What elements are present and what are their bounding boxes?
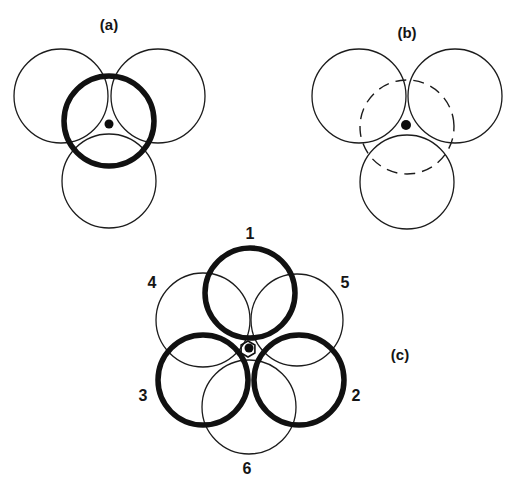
circle-number-label: 5 xyxy=(341,274,350,291)
circle-number-label: 2 xyxy=(352,387,361,404)
panel-a-label: (a) xyxy=(100,16,118,33)
panel-a: (a) xyxy=(14,16,205,228)
figure-canvas: (a) (b) (c) 456123 xyxy=(0,0,516,487)
panel-b-label: (b) xyxy=(397,24,416,41)
circle-number-label: 1 xyxy=(246,225,255,242)
center-dot xyxy=(245,344,254,353)
panel-b: (b) xyxy=(312,24,502,229)
circle-packing-figure: (a) (b) (c) 456123 xyxy=(0,0,516,487)
thin-circle xyxy=(312,49,406,143)
thin-circle xyxy=(14,49,108,143)
thick-circle xyxy=(158,335,248,425)
panel-c: (c) 456123 xyxy=(139,225,410,477)
circle-number-label: 4 xyxy=(148,274,157,291)
panel-c-label: (c) xyxy=(391,346,409,363)
center-dot xyxy=(105,120,114,129)
thick-circle xyxy=(254,335,344,425)
center-dot xyxy=(401,120,411,130)
thin-circle xyxy=(408,49,502,143)
thin-circle xyxy=(360,135,454,229)
thin-circle xyxy=(111,49,205,143)
circle-number-label: 6 xyxy=(243,460,252,477)
circle-number-label: 3 xyxy=(139,387,148,404)
